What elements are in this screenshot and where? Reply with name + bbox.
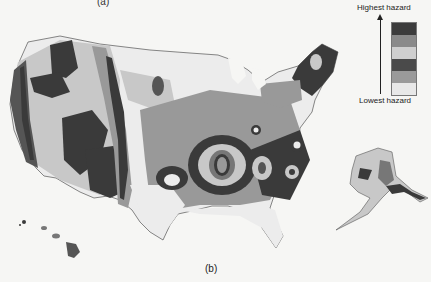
caption-b: (b)	[205, 263, 217, 274]
legend-arrow	[380, 18, 381, 94]
legend-swatch-5	[392, 35, 416, 47]
legend-swatch-2	[392, 71, 416, 83]
legend-swatch-1	[392, 83, 416, 95]
legend-low-label: Lowest hazard	[359, 96, 411, 105]
legend-scale	[391, 22, 417, 96]
hawaii	[19, 220, 80, 258]
legend-high-label: Highest hazard	[357, 3, 411, 12]
alaska	[336, 148, 428, 230]
legend-swatch-6	[392, 23, 416, 35]
legend-swatch-3	[392, 59, 416, 71]
hazard-legend: Highest hazard Lowest hazard	[355, 2, 431, 107]
legend-swatch-4	[392, 47, 416, 59]
